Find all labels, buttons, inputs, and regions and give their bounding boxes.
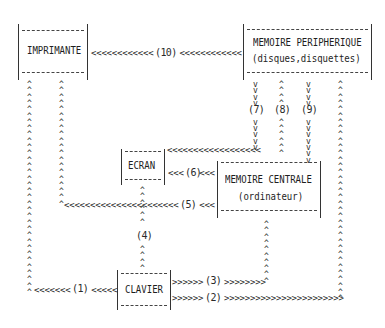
- arrow-7-row-glyph: <: [219, 145, 224, 155]
- arrow-10-glyph: <: [185, 48, 190, 58]
- arrow-7-row-glyph: <: [172, 145, 177, 155]
- centrale-box: MEMOIRE CENTRALE (ordinateur): [217, 161, 321, 218]
- centrale-label: MEMOIRE CENTRALE: [225, 174, 312, 186]
- arrow-10-glyph: <: [127, 48, 132, 58]
- arrow-5-glyph: <: [111, 200, 116, 210]
- flow-label-6: (6): [185, 168, 201, 178]
- arrow-10-glyph: <: [101, 48, 106, 58]
- arrow-10-glyph: <: [138, 48, 143, 58]
- arrow-1-up-glyph: ^: [27, 288, 31, 298]
- ecran-box: ECRAN: [121, 149, 165, 185]
- arrow-10-glyph: <: [133, 48, 138, 58]
- arrow-2-glyph: >: [266, 293, 271, 303]
- arrow-3-glyph: >: [188, 277, 193, 287]
- arrow-1-glyph: <: [96, 285, 101, 295]
- arrow-2-glyph: >: [234, 293, 239, 303]
- arrow-5-glyph: <: [69, 200, 74, 210]
- box-bottom-edge: [247, 72, 368, 73]
- arrow-7-row-glyph: <: [250, 145, 255, 155]
- arrow-1-glyph: <: [55, 285, 60, 295]
- arrow-7-row-glyph: <: [229, 145, 234, 155]
- arrow-3-glyph: >: [240, 277, 245, 287]
- arrow-5-glyph: <: [106, 200, 111, 210]
- arrow-3-glyph: >: [245, 277, 250, 287]
- arrow-5-glyph: <: [116, 200, 121, 210]
- arrow-2-glyph: >: [229, 293, 234, 303]
- arrow-5-glyph: <: [85, 200, 90, 210]
- arrow-7-row-glyph: <: [177, 145, 182, 155]
- arrow-5-glyph: <: [64, 200, 69, 210]
- arrow-10-glyph: <: [117, 48, 122, 58]
- arrow-5-glyph: <: [132, 200, 137, 210]
- arrow-1-glyph: <: [34, 285, 39, 295]
- arrow-3-glyph: >: [255, 277, 260, 287]
- arrow-1-glyph: <: [91, 285, 96, 295]
- arrow-7-row-glyph: <: [167, 145, 172, 155]
- arrow-2-glyph: >: [224, 293, 229, 303]
- arrow-6-glyph: <: [178, 168, 183, 178]
- arrow-3-glyph: >: [172, 277, 177, 287]
- arrow-2-glyph: >: [276, 293, 281, 303]
- arrow-5-glyph: <: [95, 200, 100, 210]
- arrow-2-glyph: >: [292, 293, 297, 303]
- arrow-6-glyph: <: [210, 168, 215, 178]
- arrow-7-row-glyph: <: [240, 145, 245, 155]
- arrow-1-glyph: <: [107, 285, 112, 295]
- ecran-label: ECRAN: [128, 160, 155, 172]
- arrow-10-glyph: <: [221, 48, 226, 58]
- arrow-10-glyph: <: [200, 48, 205, 58]
- arrow-2-glyph: >: [250, 293, 255, 303]
- arrow-10-glyph: <: [211, 48, 216, 58]
- arrow-10-glyph: <: [226, 48, 231, 58]
- arrow-2-glyph: >: [312, 293, 317, 303]
- arrow-7-row-glyph: <: [214, 145, 219, 155]
- arrow-2-glyph: >: [198, 293, 203, 303]
- arrow-2-glyph: >: [286, 293, 291, 303]
- arrow-10-glyph: <: [237, 48, 242, 58]
- clavier-label: CLAVIER: [125, 284, 163, 296]
- arrow-10-glyph: <: [190, 48, 195, 58]
- arrow-2-glyph: >: [338, 293, 343, 303]
- arrow-5-glyph: <: [199, 200, 204, 210]
- arrow-2-glyph: >: [297, 293, 302, 303]
- arrow-10-glyph: <: [91, 48, 96, 58]
- arrow-10-glyph: <: [143, 48, 148, 58]
- arrow-10-glyph: <: [216, 48, 221, 58]
- flow-label-1: (1): [72, 284, 88, 294]
- arrow-5-glyph: <: [80, 200, 85, 210]
- arrow-5-glyph: <: [147, 200, 152, 210]
- arrow-7-row-glyph: <: [255, 145, 260, 155]
- flow-label-7: (7): [248, 105, 264, 115]
- arrow-1-glyph: <: [65, 285, 70, 295]
- box-top-edge: [125, 151, 161, 152]
- arrow-2-glyph: >: [302, 293, 307, 303]
- arrow-5-glyph: <: [121, 200, 126, 210]
- arrow-10-glyph: <: [179, 48, 184, 58]
- imprimante-label: IMPRIMANTE: [27, 45, 81, 57]
- box-bottom-edge: [221, 210, 317, 211]
- flow-label-8: (8): [274, 105, 290, 115]
- arrow-7-row-glyph: <: [209, 145, 214, 155]
- arrow-2-glyph: >: [245, 293, 250, 303]
- arrow-2-glyph: >: [240, 293, 245, 303]
- arrow-3-glyph: >: [193, 277, 198, 287]
- arrow-10-glyph: <: [148, 48, 153, 58]
- arrow-3-glyph: >: [182, 277, 187, 287]
- flow-label-4: (4): [136, 231, 152, 241]
- arrow-5-glyph: <: [100, 200, 105, 210]
- arrow-1-glyph: <: [39, 285, 44, 295]
- box-bottom-edge: [121, 305, 167, 306]
- arrow-2-glyph: >: [328, 293, 333, 303]
- arrow-2-glyph: >: [172, 293, 177, 303]
- arrow-5-glyph: <: [163, 200, 168, 210]
- arrow-5-glyph: <: [126, 200, 131, 210]
- arrow-5-glyph: <: [210, 200, 215, 210]
- box-top-edge: [22, 30, 84, 31]
- arrow-1-glyph: <: [44, 285, 49, 295]
- arrow-1-glyph: <: [102, 285, 107, 295]
- arrow-2-glyph: >: [188, 293, 193, 303]
- arrow-5-glyph: <: [152, 200, 157, 210]
- arrow-10-glyph: <: [205, 48, 210, 58]
- arrow-7-row-glyph: <: [203, 145, 208, 155]
- arrow-1-glyph: <: [60, 285, 65, 295]
